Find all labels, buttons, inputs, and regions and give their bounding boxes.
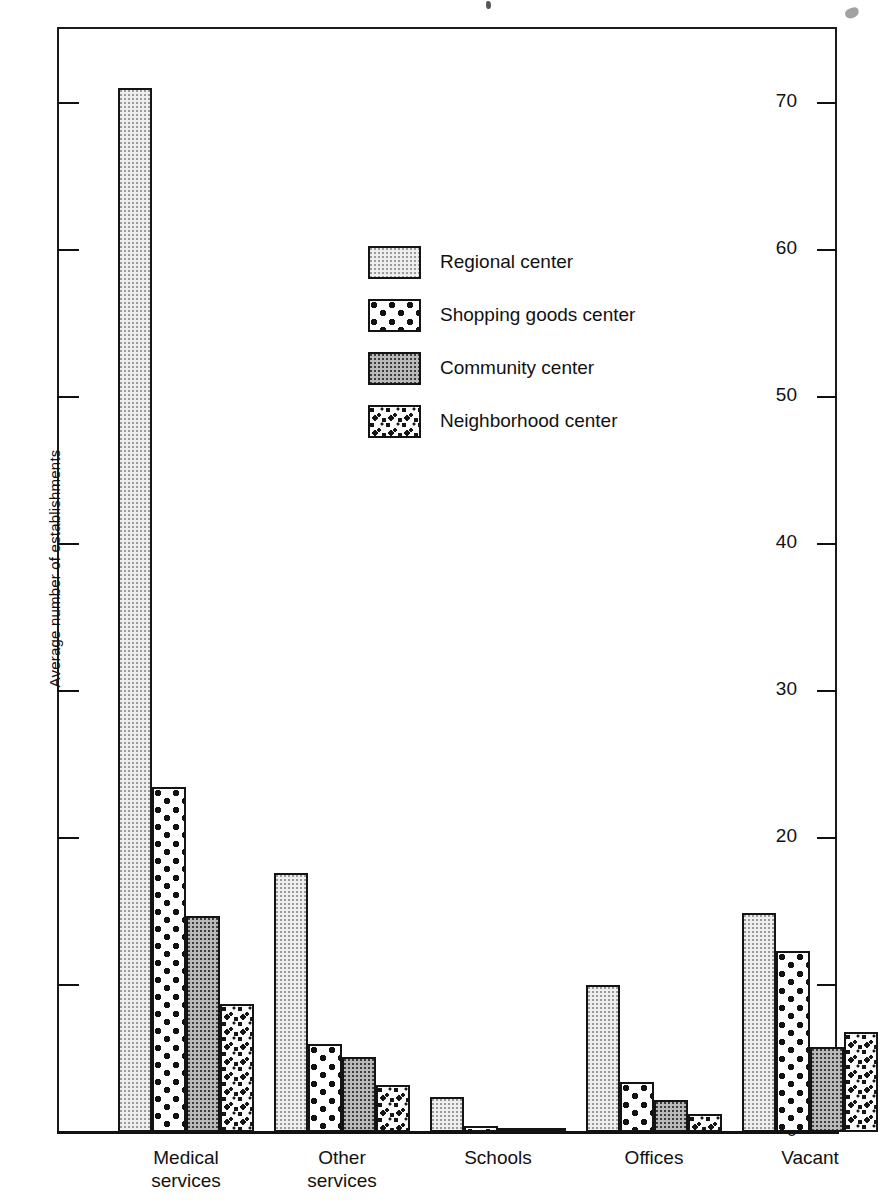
bar	[220, 1004, 254, 1132]
bar	[152, 787, 186, 1132]
bar	[186, 916, 220, 1132]
legend-label: Community center	[440, 357, 594, 379]
bar	[498, 1128, 532, 1132]
bar	[620, 1082, 654, 1132]
bar	[342, 1057, 376, 1132]
bar	[776, 951, 810, 1132]
bar	[688, 1114, 722, 1132]
bar	[742, 913, 776, 1132]
x-axis-label: Vacant	[712, 1146, 882, 1169]
bar	[308, 1044, 342, 1132]
bar	[810, 1047, 844, 1132]
bar	[274, 873, 308, 1132]
bar	[844, 1032, 878, 1132]
bar	[532, 1128, 566, 1132]
bar	[376, 1085, 410, 1132]
legend-swatch-community-center	[368, 352, 421, 385]
legend-label: Shopping goods center	[440, 304, 635, 326]
bar	[430, 1097, 464, 1132]
legend-label: Neighborhood center	[440, 410, 617, 432]
legend-swatch-regional-center	[368, 246, 421, 279]
legend-label: Regional center	[440, 251, 573, 273]
bar	[586, 985, 620, 1132]
bar	[654, 1100, 688, 1132]
legend-swatch-shopping-goods-center	[368, 299, 421, 332]
bar	[118, 88, 152, 1132]
legend-swatch-neighborhood-center	[368, 405, 421, 438]
bar	[464, 1126, 498, 1132]
